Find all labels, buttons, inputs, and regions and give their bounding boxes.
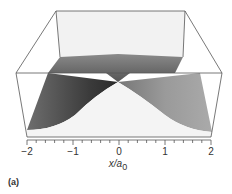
x-axis-label-subscript: 0 bbox=[122, 162, 127, 172]
x-tick-label: −2 bbox=[21, 146, 32, 157]
box-back-face bbox=[56, 11, 185, 57]
x-axis-label: x/a0 bbox=[109, 158, 127, 172]
x-axis-ticks bbox=[27, 140, 211, 145]
panel-label: (a) bbox=[8, 177, 19, 187]
x-tick-label: 2 bbox=[208, 146, 214, 157]
x-tick-label: −1 bbox=[67, 146, 78, 157]
x-tick-label: 1 bbox=[162, 146, 168, 157]
x-tick-label: 0 bbox=[116, 146, 122, 157]
x-axis-label-main: x/a bbox=[109, 158, 122, 169]
